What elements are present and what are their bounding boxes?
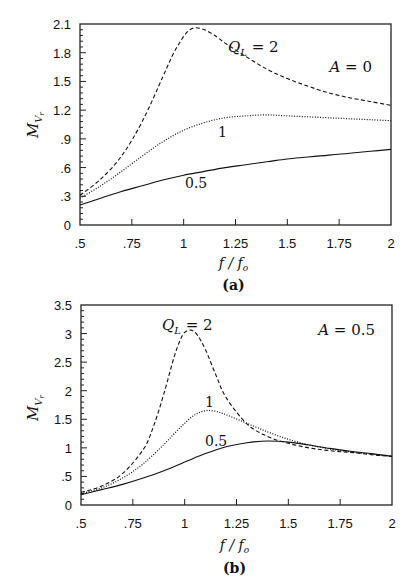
y-tick-label: 1.2 [53,103,71,118]
x-tick-label: .5 [76,516,87,531]
panel-caption: (a) [222,277,244,293]
y-tick-label: 0 [65,498,72,513]
x-tick-label: 1 [180,236,187,251]
chart-panel-a: .5.7511.251.51.7520.3.6.91.21.51.82.1QL … [24,17,395,293]
annotation-a: A = 0 [328,58,373,76]
y-tick-label: 1 [65,441,72,456]
curve-label: QL = 2 [162,316,213,336]
curve-ql-2 [81,330,392,492]
y-tick-label: 2.5 [54,355,72,370]
curve-label: 1 [218,124,227,140]
x-tick-label: 1.25 [224,516,249,531]
y-axis-label: MVr [24,111,46,139]
y-tick-label: .6 [60,161,71,176]
curve-label: 1 [205,394,214,410]
curve-label: QL = 2 [228,38,279,58]
x-axis-label: f / fo [219,537,250,555]
y-tick-label: 1.8 [53,46,71,61]
curve-label: 0.5 [205,433,227,449]
x-tick-label: .75 [123,236,141,251]
curve-ql-1 [80,115,391,198]
curve-label: 0.5 [185,175,207,191]
x-tick-label: 2 [388,516,395,531]
y-axis-label: MVr [24,394,46,422]
y-tick-label: 2.1 [53,17,71,32]
y-tick-label: .3 [60,189,71,204]
y-tick-label: 1.5 [53,74,71,89]
x-tick-label: .75 [124,516,142,531]
x-axis-label: f / fo [218,255,249,273]
y-tick-label: .5 [61,469,72,484]
y-tick-label: 3 [65,327,72,342]
x-tick-label: 1.75 [327,236,352,251]
panel-caption: (b) [223,560,246,576]
x-tick-label: .5 [75,236,86,251]
curve-ql-0-5 [80,149,391,205]
x-tick-label: 1.25 [223,236,248,251]
y-tick-label: 2 [65,384,72,399]
x-tick-label: 2 [387,236,394,251]
x-tick-label: 1.5 [278,236,296,251]
y-tick-label: .9 [60,132,71,147]
y-tick-label: 0 [64,218,71,233]
chart-panel-b: .5.7511.251.51.7520.511.522.533.5QL = 21… [24,298,396,576]
y-tick-label: 1.5 [54,412,72,427]
y-tick-label: 3.5 [54,298,72,313]
x-tick-label: 1.5 [279,516,297,531]
x-tick-label: 1.75 [328,516,353,531]
x-tick-label: 1 [181,516,188,531]
figure: .5.7511.251.51.7520.3.6.91.21.51.82.1QL … [0,0,410,586]
curve-ql-0-5 [81,441,392,495]
annotation-a: A = 0.5 [316,321,375,339]
